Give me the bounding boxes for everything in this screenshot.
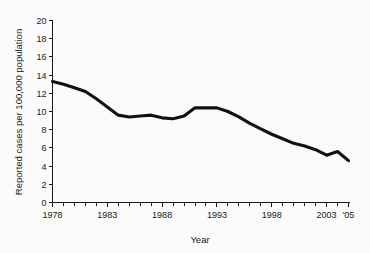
x-tick-label: 1978 <box>42 210 62 220</box>
y-tick-label: 18 <box>36 34 46 44</box>
y-tick-label: 0 <box>41 198 46 208</box>
line-chart: 02468101214161820 1978198319881993199820… <box>0 0 370 253</box>
x-tick-label: 1998 <box>262 210 282 220</box>
y-tick-label: 16 <box>36 52 46 62</box>
y-tick-label: 10 <box>36 107 46 117</box>
y-tick-label: 2 <box>41 180 46 190</box>
chart-figure: 02468101214161820 1978198319881993199820… <box>0 0 370 253</box>
y-tick-label: 20 <box>36 16 46 26</box>
x-tick-label: 1993 <box>207 210 227 220</box>
x-axis-title: Year <box>190 234 209 245</box>
y-tick-label: 8 <box>41 125 46 135</box>
x-tick-label: 1988 <box>152 210 172 220</box>
y-tick-label: 6 <box>41 143 46 153</box>
y-tick-label: 12 <box>36 89 46 99</box>
y-axis-title: Reported cases per 100,000 population <box>13 29 24 195</box>
x-tick-label: 2003 <box>317 210 337 220</box>
x-tick-label: '05 <box>343 210 355 220</box>
y-tick-label: 14 <box>36 71 46 81</box>
y-tick-label: 4 <box>41 162 46 172</box>
x-tick-label: 1983 <box>97 210 117 220</box>
